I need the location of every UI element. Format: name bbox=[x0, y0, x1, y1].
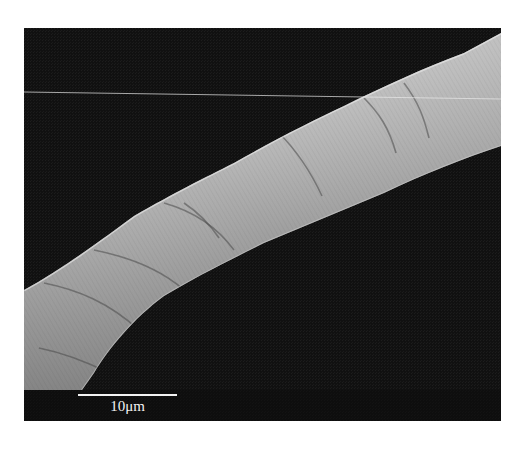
scale-bar bbox=[78, 394, 177, 396]
sem-micrograph: 10μm bbox=[24, 28, 501, 421]
figure-page: 10μm bbox=[0, 0, 521, 450]
scale-bar-label: 10μm bbox=[78, 397, 177, 415]
fiber-image bbox=[24, 28, 501, 421]
